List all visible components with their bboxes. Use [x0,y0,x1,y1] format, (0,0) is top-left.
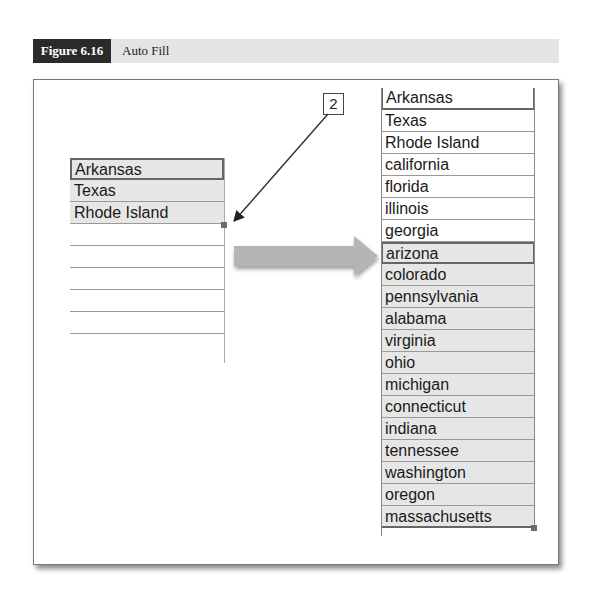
cell-before-1[interactable]: Texas [70,180,224,202]
cell-before-empty[interactable] [70,224,224,246]
cell-after-15[interactable]: indiana [381,418,535,440]
cell-after-11[interactable]: virginia [381,330,535,352]
cell-after-1[interactable]: Texas [381,110,535,132]
cell-after-8[interactable]: colorado [381,264,535,286]
column-gridline-right [534,88,535,530]
column-gridline-left [381,88,382,536]
cell-before-empty[interactable] [70,290,224,312]
cell-before-empty[interactable] [70,312,224,334]
transition-arrow-icon [232,232,382,284]
fill-handle[interactable] [531,525,537,531]
cell-after-13[interactable]: michigan [381,374,535,396]
before-sheet: Arkansas Texas Rhode Island [70,158,224,363]
cell-after-14[interactable]: connecticut [381,396,535,418]
cell-after-6[interactable]: georgia [381,220,535,242]
cell-after-10[interactable]: alabama [381,308,535,330]
cell-after-7[interactable]: arizona [381,242,535,264]
cell-after-4[interactable]: florida [381,176,535,198]
figure-number: Figure 6.16 [33,39,111,63]
cell-before-2[interactable]: Rhode Island [70,202,224,224]
figure-title: Auto Fill [122,39,169,63]
cell-after-19[interactable]: massachusetts [381,506,535,528]
cell-before-empty[interactable] [70,334,224,356]
cell-before-0[interactable]: Arkansas [70,158,224,180]
cell-after-16[interactable]: tennessee [381,440,535,462]
cell-after-2[interactable]: Rhode Island [381,132,535,154]
cell-after-9[interactable]: pennsylvania [381,286,535,308]
cell-after-12[interactable]: ohio [381,352,535,374]
cell-after-5[interactable]: illinois [381,198,535,220]
figure-header: Figure 6.16 Auto Fill [33,39,559,63]
cell-after-0[interactable]: Arkansas [381,88,535,110]
pointer-arrow-icon [225,110,335,230]
cell-after-18[interactable]: oregon [381,484,535,506]
cell-after-17[interactable]: washington [381,462,535,484]
cell-before-empty[interactable] [70,246,224,268]
cell-after-3[interactable]: california [381,154,535,176]
after-sheet: Arkansas Texas Rhode Island california f… [381,88,535,536]
cell-before-empty[interactable] [70,268,224,290]
